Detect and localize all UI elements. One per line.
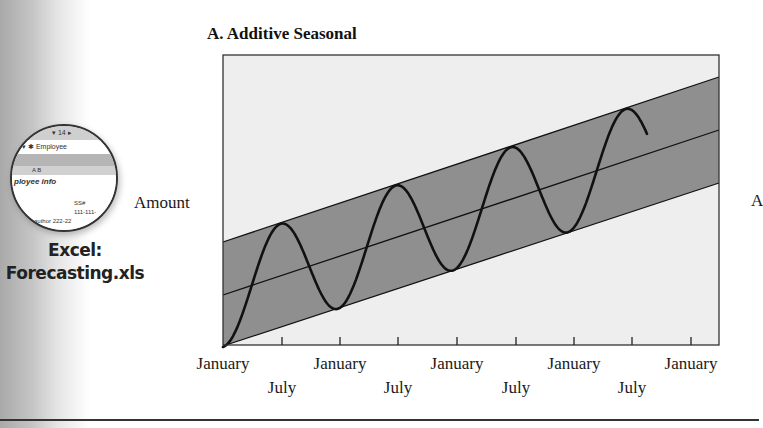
x-tick-label-january: January [197,354,250,374]
x-tick-label-july: July [268,378,296,398]
x-tick-label-january: January [665,354,718,374]
y-axis-label: Amount [134,193,190,213]
x-tick-label-january: January [548,354,601,374]
page-divider [0,419,759,421]
x-tick-label-january: January [314,354,367,374]
x-tick-label-july: July [384,378,412,398]
x-tick-label-july: July [618,378,646,398]
x-tick-label-january: January [431,354,484,374]
x-tick-label-july: July [502,378,530,398]
adjacent-chart-y-label: A [751,191,763,211]
